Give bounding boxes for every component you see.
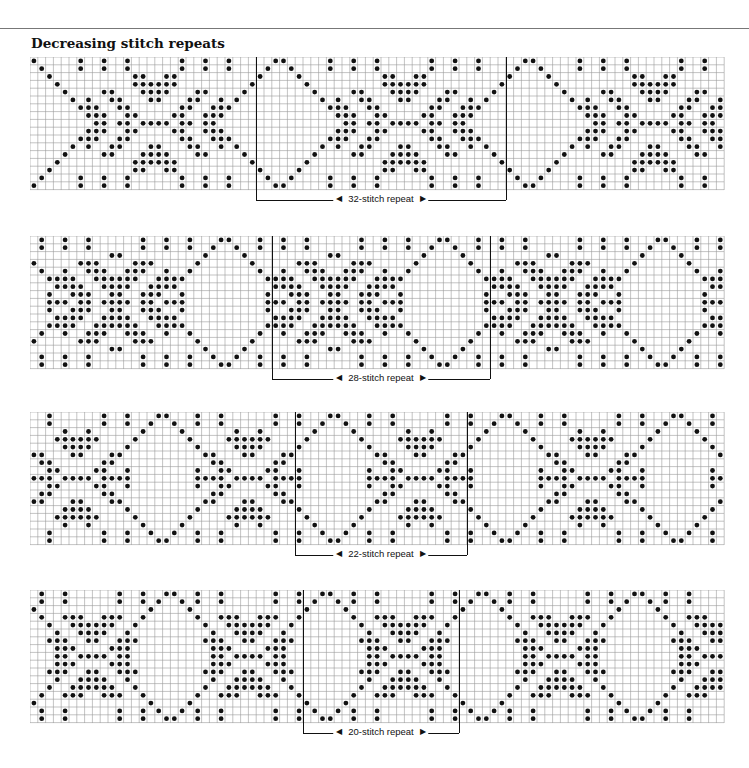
page-title: Decreasing stitch repeats	[31, 35, 225, 51]
chart-28-stitch: ◀28-stitch repeat▶	[30, 236, 724, 399]
repeat-boundary-line	[256, 57, 257, 200]
arrow-left-icon: ◀	[336, 550, 342, 558]
arrow-right-icon: ▶	[420, 195, 426, 203]
repeat-label-text: 32-stitch repeat	[348, 193, 413, 204]
stitch-grid	[30, 590, 725, 724]
repeat-label-text: 28-stitch repeat	[348, 372, 413, 383]
repeat-boundary-line	[459, 590, 460, 733]
repeat-label-text: 22-stitch repeat	[348, 548, 413, 559]
repeat-label: ◀32-stitch repeat▶	[333, 193, 428, 204]
chart-20-stitch: ◀20-stitch repeat▶	[30, 590, 724, 753]
repeat-label-text: 20-stitch repeat	[348, 726, 413, 737]
repeat-label: ◀22-stitch repeat▶	[333, 548, 428, 559]
repeat-boundary-line	[303, 590, 304, 733]
repeat-boundary-line	[506, 57, 507, 200]
repeat-boundary-line	[490, 236, 491, 379]
stitch-grid	[30, 412, 725, 546]
stitch-grid	[30, 236, 725, 370]
repeat-boundary-line	[272, 236, 273, 379]
repeat-label: ◀20-stitch repeat▶	[333, 726, 428, 737]
chart-22-stitch: ◀22-stitch repeat▶	[30, 412, 724, 575]
chart-32-stitch: ◀32-stitch repeat▶	[30, 57, 724, 220]
arrow-left-icon: ◀	[336, 374, 342, 382]
arrow-right-icon: ▶	[420, 728, 426, 736]
arrow-left-icon: ◀	[336, 728, 342, 736]
repeat-boundary-line	[467, 412, 468, 555]
arrow-right-icon: ▶	[420, 550, 426, 558]
repeat-label: ◀28-stitch repeat▶	[333, 372, 428, 383]
header-rule	[0, 28, 749, 29]
stitch-grid	[30, 57, 725, 191]
arrow-right-icon: ▶	[420, 374, 426, 382]
arrow-left-icon: ◀	[336, 195, 342, 203]
repeat-boundary-line	[295, 412, 296, 555]
